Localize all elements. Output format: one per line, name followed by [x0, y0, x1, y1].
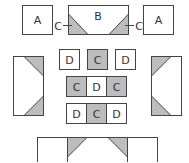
cell-label: D — [121, 54, 129, 67]
block-a-right: A — [144, 6, 174, 35]
bottom-unit — [38, 138, 158, 163]
block-a-left: A — [23, 6, 53, 35]
cell-label: C — [113, 81, 121, 94]
grid-row-2: C D C — [67, 77, 127, 97]
side-unit-left — [14, 57, 44, 116]
block-b: B — [69, 6, 129, 35]
cell-label: C — [93, 108, 101, 121]
label-c-left: C — [54, 20, 62, 33]
cell-label: C — [73, 81, 81, 94]
grid-row-3: D C D — [67, 104, 127, 124]
cell-label: C — [94, 54, 102, 67]
cell-label: D — [65, 54, 73, 67]
quilt-block-diagram: A B C C A D C D C — [0, 0, 189, 162]
cell-label: D — [112, 108, 120, 121]
label-a-left: A — [34, 14, 42, 27]
grid-row-1: D C D — [60, 50, 136, 70]
label-a-right: A — [155, 14, 163, 27]
side-unit-right — [152, 57, 182, 116]
cell-label: D — [72, 108, 80, 121]
label-c-right: C — [135, 20, 143, 33]
label-b: B — [94, 10, 102, 23]
cell-label: D — [92, 81, 100, 94]
